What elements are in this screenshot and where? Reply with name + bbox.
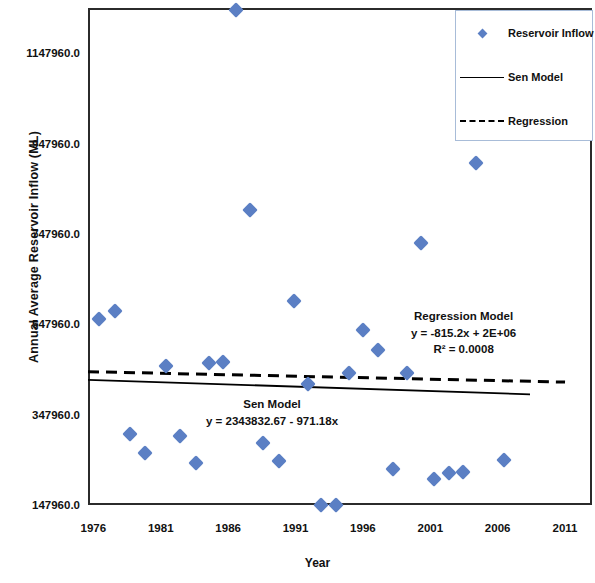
dashed-line-icon	[456, 120, 508, 122]
data-point	[328, 497, 344, 513]
chart-legend: Reservoir Inflow Sen Model Regression	[455, 10, 593, 141]
data-point	[91, 311, 107, 327]
data-point	[497, 452, 513, 468]
data-point	[400, 365, 416, 381]
sen-model-annotation-title: Sen Model	[206, 396, 338, 413]
legend-label-regression: Regression	[508, 115, 568, 127]
data-point	[355, 322, 371, 338]
regression-model-annotation: Regression Model y = -815.2x + 2E+06 R² …	[411, 308, 516, 358]
data-point	[455, 464, 471, 480]
data-point	[300, 377, 316, 393]
data-point	[215, 354, 231, 370]
legend-label-reservoir-inflow: Reservoir Inflow	[508, 27, 594, 39]
data-point	[441, 465, 457, 481]
data-point	[342, 365, 358, 381]
legend-item-regression[interactable]: Regression	[456, 107, 594, 135]
regression-model-r-squared: R² = 0.0008	[411, 341, 516, 358]
data-point	[370, 342, 386, 358]
data-point	[255, 435, 271, 451]
regression-model-annotation-equation: y = -815.2x + 2E+06	[411, 325, 516, 342]
data-point	[158, 358, 174, 374]
data-point	[122, 426, 138, 442]
data-point	[188, 456, 204, 472]
chart-root: Annual Average Reservoir Inflow (ML) 147…	[0, 0, 595, 583]
data-point	[202, 355, 218, 371]
data-point	[107, 303, 123, 319]
legend-label-sen-model: Sen Model	[508, 71, 563, 83]
data-point	[137, 446, 153, 462]
data-point	[385, 461, 401, 477]
data-point	[172, 428, 188, 444]
data-point	[272, 453, 288, 469]
legend-item-sen-model[interactable]: Sen Model	[456, 63, 594, 91]
data-point	[313, 497, 329, 513]
data-point	[427, 471, 443, 487]
data-point	[468, 155, 484, 171]
data-point	[413, 235, 429, 251]
sen-model-annotation: Sen Model y = 2343832.67 - 971.18x	[206, 396, 338, 429]
x-axis-title: Year	[0, 556, 595, 570]
data-point	[286, 293, 302, 309]
regression-model-annotation-title: Regression Model	[411, 308, 516, 325]
legend-item-reservoir-inflow[interactable]: Reservoir Inflow	[456, 19, 594, 47]
solid-line-icon	[456, 77, 508, 78]
diamond-marker-icon	[456, 30, 508, 37]
data-point	[228, 2, 244, 18]
data-point	[242, 203, 258, 219]
sen-model-annotation-equation: y = 2343832.67 - 971.18x	[206, 413, 338, 430]
